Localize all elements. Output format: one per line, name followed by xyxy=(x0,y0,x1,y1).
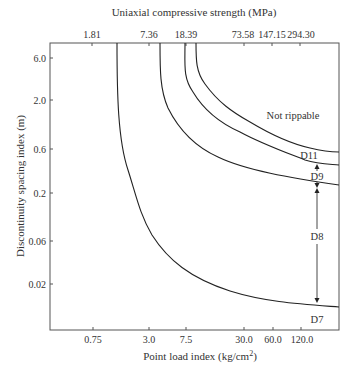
curve-d11-not-rippable xyxy=(196,43,339,152)
x-tick-label: 3.0 xyxy=(143,334,156,345)
d8-range-arrow xyxy=(315,188,320,303)
region-label-d11: D11 xyxy=(300,150,318,161)
y-axis-ticks: 6.0 2.0 0.6 0.2 0.06 0.02 xyxy=(29,53,54,290)
region-label-d8: D8 xyxy=(311,231,324,242)
top-tick-label: 1.81 xyxy=(83,29,101,40)
x-tick-label: 120.0 xyxy=(291,334,314,345)
x-tick-label: 7.5 xyxy=(180,334,193,345)
y-tick-label: 0.2 xyxy=(34,188,47,199)
top-tick-label: 73.58 xyxy=(232,29,255,40)
x-tick-label: 30.0 xyxy=(235,334,253,345)
top-tick-label: 147.15 xyxy=(258,29,286,40)
y-tick-label: 6.0 xyxy=(34,53,47,64)
x-tick-label: 60.0 xyxy=(264,334,282,345)
y-tick-label: 2.0 xyxy=(34,95,47,106)
top-tick-label: 18.39 xyxy=(175,29,198,40)
curve-d7-d8 xyxy=(117,43,339,307)
region-label-not-rippable: Not rippable xyxy=(267,110,320,121)
y-tick-label: 0.06 xyxy=(29,236,47,247)
top-tick-label: 294.30 xyxy=(287,29,315,40)
x-axis-title: Point load index (kg/cm2) xyxy=(143,349,257,363)
region-label-d9: D9 xyxy=(311,171,324,182)
y-tick-label: 0.02 xyxy=(29,279,47,290)
rippability-chart: Uniaxial compressive strength (MPa) 1.81… xyxy=(0,0,354,372)
top-axis-title: Uniaxial compressive strength (MPa) xyxy=(112,6,277,19)
y-tick-label: 0.6 xyxy=(34,144,47,155)
x-tick-label: 0.75 xyxy=(84,334,102,345)
y-axis-title: Discontinuity spacing index (m) xyxy=(14,115,27,257)
plot-frame xyxy=(50,43,339,330)
region-label-d7: D7 xyxy=(311,314,324,325)
curve-d9-d11 xyxy=(185,43,339,165)
top-tick-label: 7.36 xyxy=(140,29,158,40)
